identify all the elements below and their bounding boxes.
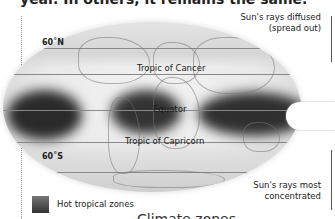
- figure-caption: Climate zones: [137, 211, 236, 219]
- tropic-of-capricorn-label: Tropic of Capricorn: [125, 136, 204, 146]
- world-map-ellipse: [3, 22, 301, 192]
- continent-outline-australia: [243, 122, 280, 152]
- sun-rays-diffused-line1: Sun's rays diffused: [240, 12, 321, 23]
- sun-rays-diffused-annotation: Sun's rays diffused (spread out): [240, 12, 321, 34]
- continent-outline-north-america: [78, 37, 150, 84]
- tropical-zone-band: [7, 90, 82, 140]
- latitude-label-60s: 60˚S: [42, 152, 63, 161]
- tropic-of-cancer-label: Tropic of Cancer: [137, 63, 205, 73]
- annotation-rule-top: [331, 16, 332, 62]
- equator-line: [3, 110, 301, 111]
- continent-outline-antarctica: [113, 170, 225, 188]
- legend-label-hot-tropical: Hot tropical zones: [57, 199, 134, 209]
- annotation-rule-bottom: [331, 150, 332, 210]
- sun-rays-concentrated-line1: Sun's rays most: [253, 180, 321, 191]
- header-text: year. In others, it remains the same.: [20, 0, 307, 7]
- sun-rays-concentrated-line2: concentrated: [253, 191, 321, 202]
- sun-rays-diffused-line2: (spread out): [240, 23, 321, 34]
- equator-label: Equator: [153, 104, 186, 114]
- legend-swatch-hot-tropical: [32, 196, 49, 213]
- sun-ray-beam-concentrated: [286, 102, 335, 130]
- latitude-label-60n: 60˚N: [42, 38, 64, 47]
- sun-rays-concentrated-annotation: Sun's rays most concentrated: [253, 180, 321, 202]
